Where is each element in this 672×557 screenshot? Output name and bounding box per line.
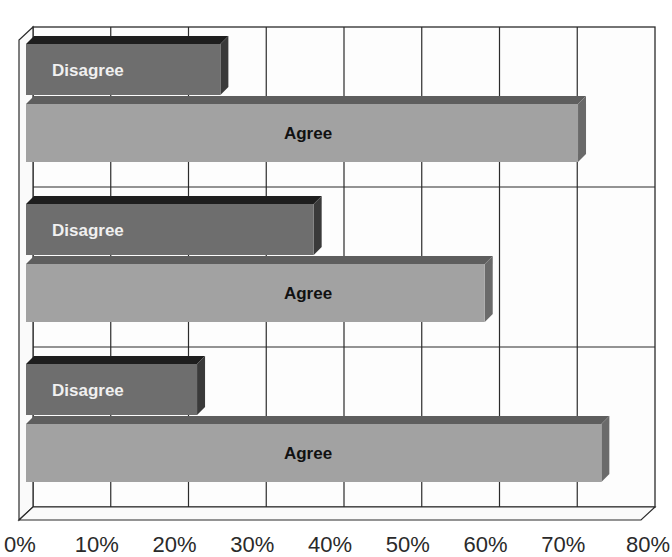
agree-bar: Agree (26, 96, 586, 162)
x-tick-label: 80% (626, 532, 670, 557)
disagree-bar: Disagree (26, 356, 205, 415)
x-tick-label: 0% (4, 532, 36, 557)
x-tick-label: 50% (386, 532, 430, 557)
floor (19, 507, 655, 520)
disagree-bar: Disagree (26, 36, 228, 95)
x-tick-label: 20% (152, 532, 196, 557)
bar-label: Agree (284, 284, 332, 303)
x-tick-label: 60% (463, 532, 507, 557)
bar-label: Disagree (52, 221, 124, 240)
x-tick-label: 70% (541, 532, 585, 557)
bar-label: Disagree (52, 381, 124, 400)
agree-bar: Agree (26, 256, 493, 322)
bar-label: Agree (284, 444, 332, 463)
x-tick-label: 30% (230, 532, 274, 557)
x-axis-tick-labels: 0%10%20%30%40%50%60%70%80% (4, 532, 670, 557)
bar-chart: DisagreeAgreeDisagreeAgreeDisagreeAgree … (0, 0, 672, 557)
x-tick-label: 40% (308, 532, 352, 557)
x-tick-label: 10% (75, 532, 119, 557)
agree-bar: Agree (26, 416, 609, 482)
bar-label: Disagree (52, 61, 124, 80)
bar-label: Agree (284, 124, 332, 143)
disagree-bar: Disagree (26, 196, 322, 255)
